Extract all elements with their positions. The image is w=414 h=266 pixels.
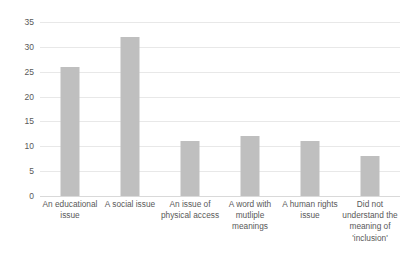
bar (181, 141, 200, 196)
x-category-label: A social issue (100, 199, 160, 210)
y-axis-tick-labels: 05101520253035 (0, 22, 34, 196)
bar (61, 67, 80, 196)
bar (241, 136, 260, 196)
x-axis-category-labels: An educational issueA social issueAn iss… (40, 199, 400, 263)
bar-slot (100, 22, 160, 196)
bar-slot (40, 22, 100, 196)
bar (121, 37, 140, 196)
bar-chart-figure: 05101520253035 An educational issueA soc… (0, 0, 414, 266)
y-tick-label-25: 25 (0, 67, 34, 76)
y-tick-label-20: 20 (0, 92, 34, 101)
gridline-0 (40, 196, 400, 197)
bar (361, 156, 380, 196)
bar-slot (340, 22, 400, 196)
x-category-label: An issue of physical access (160, 199, 220, 221)
x-category-label: A human rights issue (280, 199, 340, 221)
bar (301, 141, 320, 196)
x-category-label: An educational issue (40, 199, 100, 221)
y-tick-label-15: 15 (0, 117, 34, 126)
bar-slot (220, 22, 280, 196)
y-tick-label-10: 10 (0, 142, 34, 151)
x-category-label: Did not understand the meaning of 'inclu… (340, 199, 400, 244)
bar-slot (160, 22, 220, 196)
y-tick-label-0: 0 (0, 192, 34, 201)
y-tick-label-30: 30 (0, 43, 34, 52)
y-tick-label-5: 5 (0, 167, 34, 176)
plot-area (40, 22, 400, 196)
x-category-label: A word with mutliple meanings (220, 199, 280, 233)
bar-slot (280, 22, 340, 196)
y-tick-label-35: 35 (0, 18, 34, 27)
